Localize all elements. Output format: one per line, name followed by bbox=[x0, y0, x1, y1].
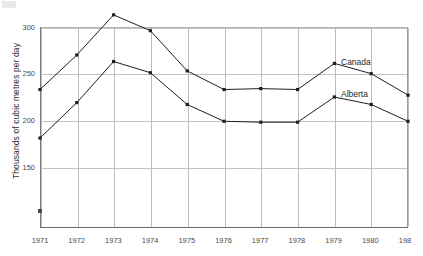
data-point-canada-1974 bbox=[149, 29, 152, 32]
series-line-canada bbox=[40, 15, 408, 95]
x-tick-label-1973: 1973 bbox=[93, 236, 133, 245]
data-point-canada-1973 bbox=[112, 13, 115, 16]
data-point-alberta-1975 bbox=[186, 103, 189, 106]
data-point-alberta-1977 bbox=[259, 121, 262, 124]
series-label-alberta: Alberta bbox=[341, 89, 368, 99]
series-line-alberta bbox=[40, 62, 408, 139]
data-point-alberta-1974 bbox=[149, 71, 152, 74]
series-label-canada: Canada bbox=[341, 57, 371, 67]
data-point-alberta-1980 bbox=[370, 103, 373, 106]
data-point-alberta-1978 bbox=[296, 121, 299, 124]
series-alberta bbox=[38, 60, 409, 140]
x-tick-label-1974: 1974 bbox=[130, 236, 170, 245]
x-tick-label-1979: 1979 bbox=[314, 236, 354, 245]
series-layer bbox=[0, 0, 423, 256]
x-tick-label-1972: 1972 bbox=[57, 236, 97, 245]
data-point-alberta-198 bbox=[406, 120, 409, 123]
x-tick-label-1977: 1977 bbox=[240, 236, 280, 245]
data-point-alberta-1972 bbox=[75, 101, 78, 104]
data-point-canada-1975 bbox=[186, 69, 189, 72]
data-point-alberta-1973 bbox=[112, 60, 115, 63]
x-tick-label-1978: 1978 bbox=[277, 236, 317, 245]
data-point-alberta-1976 bbox=[222, 120, 225, 123]
x-tick-label-1976: 1976 bbox=[204, 236, 244, 245]
data-point-canada-1980 bbox=[370, 72, 373, 75]
data-point-canada-1979 bbox=[333, 62, 336, 65]
data-point-canada-1971 bbox=[38, 88, 41, 91]
x-tick-label-1971: 1971 bbox=[20, 236, 60, 245]
data-point-canada-198 bbox=[406, 94, 409, 97]
data-point-canada-1972 bbox=[75, 53, 78, 56]
chart-page: Thousands of cubic metres per day 300 25… bbox=[0, 0, 423, 256]
data-point-alberta-1979 bbox=[333, 95, 336, 98]
data-point-alberta-1971 bbox=[38, 136, 41, 139]
x-tick-label-1975: 1975 bbox=[167, 236, 207, 245]
data-point-canada-1976 bbox=[222, 88, 225, 91]
series-canada bbox=[38, 13, 409, 96]
x-tick-label-1981: 198 bbox=[385, 236, 423, 245]
data-point-canada-1977 bbox=[259, 87, 262, 90]
data-point-canada-1978 bbox=[296, 88, 299, 91]
